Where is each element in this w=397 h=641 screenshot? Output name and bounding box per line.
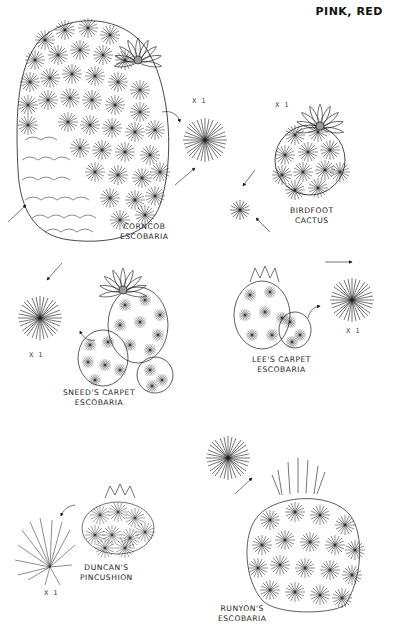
sneeds-carpet-escobaria-drawing — [78, 268, 173, 393]
species-label-runyons-escobaria: RUNYON'S ESCOBARIA — [218, 604, 267, 624]
label-line-2: ESCOBARIA — [120, 232, 169, 242]
birdfoot-cactus-drawing — [272, 104, 350, 200]
scale-marker-duncans: X 1 — [44, 589, 59, 597]
scale-marker-birdfoot: X 1 — [275, 101, 290, 109]
label-line-2: ESCOBARIA — [252, 365, 311, 375]
corncob-spine-detail — [175, 118, 227, 185]
field-guide-page: PINK, RED — [0, 0, 397, 641]
species-label-sneeds-carpet-escobaria: SNEED'S CARPET ESCOBARIA — [63, 388, 135, 408]
species-label-birdfoot-cactus: BIRDFOOT CACTUS — [290, 206, 334, 226]
lees-spine-detail — [325, 262, 374, 322]
duncans-pincushion-drawing — [61, 484, 155, 558]
species-label-corncob-escobaria: CORNCOB ESCOBARIA — [120, 222, 169, 242]
species-label-duncans-pincushion: DUNCAN'S PINCUSHION — [80, 563, 133, 583]
sneeds-spine-detail — [18, 263, 62, 340]
scale-marker-corncob: X 1 — [192, 97, 207, 105]
runyons-escobaria-drawing — [247, 458, 365, 612]
species-label-lees-carpet-escobaria: LEE'S CARPET ESCOBARIA — [252, 355, 311, 375]
corncob-escobaria-drawing — [8, 18, 180, 241]
label-line-1: BIRDFOOT — [290, 206, 334, 216]
label-line-2: ESCOBARIA — [218, 614, 267, 624]
label-line-1: LEE'S CARPET — [252, 355, 311, 365]
label-line-2: PINCUSHION — [80, 573, 133, 583]
scale-marker-lees: X 1 — [346, 327, 361, 335]
birdfoot-spine-detail — [218, 170, 270, 232]
scale-marker-sneeds: X 1 — [29, 351, 44, 359]
label-line-1: CORNCOB — [120, 222, 169, 232]
label-line-2: ESCOBARIA — [63, 398, 135, 408]
duncans-spine-detail — [15, 518, 75, 585]
label-line-1: SNEED'S CARPET — [63, 388, 135, 398]
label-line-2: CACTUS — [290, 216, 334, 226]
label-line-1: RUNYON'S — [218, 604, 267, 614]
runyons-spine-detail — [206, 436, 252, 494]
label-line-1: DUNCAN'S — [80, 563, 133, 573]
lees-carpet-escobaria-drawing — [234, 266, 320, 349]
